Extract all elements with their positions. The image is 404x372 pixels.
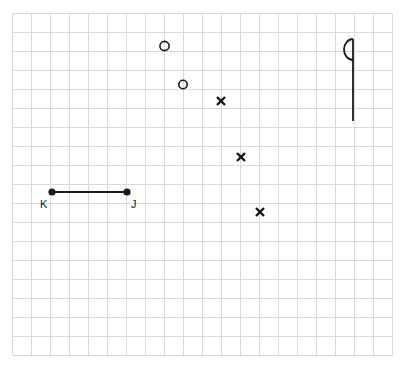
point-label-K: K [40,198,48,210]
endpoint-dot-J[interactable] [123,188,130,195]
point-label-J: J [131,198,137,210]
endpoint-dot-K[interactable] [48,188,55,195]
geometry-figure: KJ [0,0,404,372]
figure-canvas: KJ [0,0,404,372]
square-grid [13,14,393,356]
